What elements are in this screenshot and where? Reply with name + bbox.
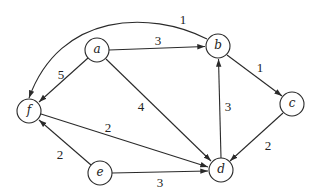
node-e-label: e — [96, 165, 103, 179]
weight-a-d: 4 — [138, 99, 145, 114]
weight-b-c: 1 — [257, 60, 264, 75]
node-a: a — [85, 38, 109, 62]
node-b: b — [206, 34, 230, 58]
weight-a-b: 3 — [155, 33, 162, 48]
weight-b-f: 1 — [180, 12, 187, 27]
node-e: e — [88, 161, 112, 185]
node-f: f — [17, 99, 41, 123]
weight-e-f: 2 — [57, 147, 64, 162]
weight-d-b: 3 — [225, 99, 232, 114]
weight-e-d: 3 — [157, 175, 164, 190]
node-b-label: b — [214, 38, 222, 52]
edge-c-d — [230, 113, 283, 161]
graph-canvas: 3 5 4 1 1 2 3 2 2 3 a b c d e f — [0, 0, 322, 196]
weight-a-f: 5 — [58, 67, 65, 82]
weight-f-d: 2 — [105, 120, 112, 135]
edge-a-d — [106, 59, 211, 161]
node-a-label: a — [93, 42, 100, 56]
node-c-label: c — [289, 96, 296, 110]
node-d-label: d — [217, 162, 225, 176]
weight-c-d: 2 — [265, 138, 272, 153]
edge-b-c — [227, 55, 282, 96]
edge-d-b — [219, 59, 222, 158]
edge-e-f — [39, 120, 91, 165]
edge-e-d — [112, 171, 208, 173]
node-d: d — [209, 158, 233, 182]
node-c: c — [280, 92, 304, 116]
edge-f-d — [41, 114, 208, 167]
